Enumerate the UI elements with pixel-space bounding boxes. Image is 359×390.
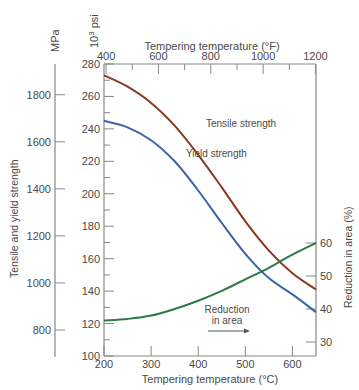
fahrenheit-tick-label: 400: [97, 50, 115, 62]
mpa-tick-label: 800: [33, 324, 51, 336]
bottom-axis-title: Tempering temperature (°C): [142, 373, 278, 385]
reduction-tick-label: 40: [320, 303, 332, 315]
left-axis-title: Tensile and yield strength: [8, 159, 20, 278]
celsius-tick-label: 500: [236, 358, 254, 370]
psi-tick-label: 180: [82, 220, 100, 232]
top-axis-title: Tempering temperature (°F): [144, 40, 279, 52]
mpa-axis: 80010001200140016001800: [27, 64, 65, 357]
tempering-chart: MPa 103psi Tensile and yield strength 80…: [0, 0, 359, 390]
psi-tick-label: 120: [82, 318, 100, 330]
reduction-label-line1: Reduction: [204, 304, 249, 315]
mpa-unit-label: MPa: [49, 29, 61, 53]
reduction-tick-label: 50: [320, 270, 332, 282]
celsius-tick-label: 200: [95, 358, 113, 370]
fahrenheit-tick-label: 1200: [303, 50, 327, 62]
psi-tick-label: 260: [82, 90, 100, 102]
series-lines: [104, 75, 316, 320]
arrow-right-icon: [208, 329, 250, 334]
celsius-tick-label: 600: [283, 358, 301, 370]
reduction-tick-label: 60: [320, 237, 332, 249]
psi-axis-ticks: 100120140160180200220240260280: [82, 58, 114, 362]
psi-tick-label: 220: [82, 155, 100, 167]
mpa-tick-label: 1400: [27, 183, 51, 195]
psi-tick-label: 140: [82, 285, 100, 297]
mpa-tick-label: 1200: [27, 230, 51, 242]
reduction-label-line2: in area: [212, 315, 243, 326]
tensile-strength-line: [104, 75, 316, 289]
celsius-tick-label: 400: [189, 358, 207, 370]
mpa-tick-label: 1000: [27, 277, 51, 289]
celsius-axis-ticks: 200300400500600: [95, 346, 302, 370]
psi-tick-label: 160: [82, 253, 100, 265]
plot-area: 100120140160180200220240260280 200300400…: [82, 50, 333, 370]
tensile-strength-label: Tensile strength: [206, 118, 276, 129]
mpa-tick-label: 1600: [27, 136, 51, 148]
psi-tick-label: 240: [82, 123, 100, 135]
celsius-tick-label: 300: [142, 358, 160, 370]
psi-tick-label: 200: [82, 188, 100, 200]
fahrenheit-axis-ticks: 40060080010001200: [97, 50, 328, 74]
reduction-tick-label: 30: [320, 336, 332, 348]
yield-strength-label: Yield strength: [186, 148, 247, 159]
mpa-tick-label: 1800: [27, 89, 51, 101]
reduction-axis-ticks: 30405060: [306, 237, 332, 348]
psi-unit-label: 103psi: [87, 14, 100, 48]
right-axis-title: Reduction in area (%): [342, 206, 354, 308]
